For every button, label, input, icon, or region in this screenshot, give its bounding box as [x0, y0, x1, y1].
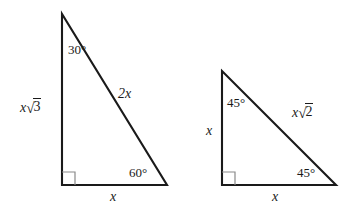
label-side-x-base-left: x	[110, 190, 116, 204]
label-side-2x: 2x	[118, 87, 131, 101]
label-angle-45-base: 45°	[297, 166, 315, 179]
triangle-30-60-90-outline	[62, 14, 167, 185]
label-angle-60: 60°	[129, 166, 147, 179]
right-angle-marker-icon	[222, 172, 235, 185]
label-side-x-sqrt2: x√2	[292, 104, 313, 120]
diagram-canvas: 30° 60° x√3 2x x 45° 45° x x√2 x	[0, 0, 346, 211]
label-side-x-leg: x	[206, 124, 212, 138]
label-side-x-base-right: x	[272, 190, 278, 204]
triangle-45-45-90-outline	[222, 71, 336, 185]
label-side-x-sqrt2-radicand: 2	[305, 103, 313, 119]
triangle-45-45-90	[222, 71, 336, 185]
triangle-30-60-90	[62, 14, 167, 185]
label-angle-45-apex: 45°	[227, 96, 245, 109]
label-angle-30: 30°	[68, 43, 86, 56]
label-side-x-sqrt3-radicand: 3	[33, 98, 41, 114]
right-angle-marker-icon	[62, 172, 75, 185]
label-side-x-sqrt3: x√3	[20, 99, 41, 115]
